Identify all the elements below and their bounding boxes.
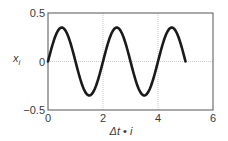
y-tick-label: 0	[39, 56, 45, 68]
x-tick-label: 2	[100, 112, 106, 124]
x-tick-label: 4	[155, 112, 161, 124]
x-axis-label: Δt • i	[109, 125, 133, 137]
x-tick-label: 0	[45, 112, 51, 124]
y-tick-labels: −0.500.5	[23, 7, 45, 116]
y-tick-label: 0.5	[30, 7, 45, 19]
y-axis-label: xi	[12, 52, 21, 67]
x-tick-label: 6	[210, 112, 216, 124]
chart: 0246 −0.500.5 xi Δt • i	[0, 0, 228, 141]
y-tick-label: −0.5	[23, 104, 45, 116]
x-tick-labels: 0246	[45, 112, 216, 124]
